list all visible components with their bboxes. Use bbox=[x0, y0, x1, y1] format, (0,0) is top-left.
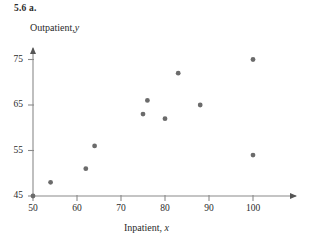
y-tick-label: 55 bbox=[5, 145, 23, 155]
x-tick-label: 80 bbox=[154, 203, 176, 213]
scatter-point bbox=[92, 144, 97, 149]
scatter-point bbox=[31, 194, 36, 199]
x-tick-label: 60 bbox=[66, 203, 88, 213]
y-tick-label: 75 bbox=[5, 54, 23, 64]
x-tick-label: 70 bbox=[110, 203, 132, 213]
scatter-point bbox=[141, 112, 146, 117]
chart-tick-marks bbox=[28, 60, 253, 202]
chart-axes bbox=[33, 48, 296, 196]
y-tick-label: 45 bbox=[5, 190, 23, 200]
scatter-point bbox=[163, 116, 168, 121]
x-tick-label: 50 bbox=[22, 203, 44, 213]
figure-container: 5.6 a. 455565755060708090100 Outpatient,… bbox=[0, 0, 315, 242]
scatter-point bbox=[176, 71, 181, 76]
y-axis-label: Outpatient,y bbox=[30, 22, 79, 33]
y-tick-label: 65 bbox=[5, 99, 23, 109]
x-tick-label: 100 bbox=[242, 203, 264, 213]
x-axis-label-text: Inpatient, bbox=[124, 222, 162, 233]
x-tick-label: 90 bbox=[198, 203, 220, 213]
y-axis-label-var: y bbox=[75, 22, 79, 33]
scatter-point bbox=[251, 57, 256, 62]
scatter-point bbox=[83, 166, 88, 171]
scatter-plot: 455565755060708090100 Outpatient,y Inpat… bbox=[0, 0, 315, 242]
scatter-point bbox=[145, 98, 150, 103]
y-axis-label-text: Outpatient, bbox=[30, 22, 75, 33]
chart-data-points bbox=[31, 57, 256, 198]
x-axis-label: Inpatient, x bbox=[124, 222, 169, 233]
scatter-point bbox=[198, 103, 203, 108]
scatter-point bbox=[48, 180, 53, 185]
scatter-point bbox=[251, 153, 256, 158]
x-axis-label-var: x bbox=[165, 222, 169, 233]
